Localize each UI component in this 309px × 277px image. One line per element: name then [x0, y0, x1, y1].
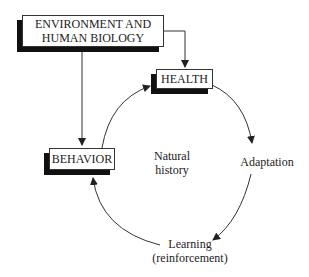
label-adaptation-text: Adaptation — [240, 155, 293, 169]
label-learning-line1: Learning — [140, 237, 240, 251]
node-environment-line2: HUMAN BIOLOGY — [42, 31, 144, 45]
diagram-canvas: ENVIRONMENT AND HUMAN BIOLOGY HEALTH BEH… — [0, 0, 309, 277]
label-adaptation: Adaptation — [237, 155, 297, 169]
node-environment-line1: ENVIRONMENT AND — [35, 17, 151, 31]
label-learning: Learning (reinforcement) — [140, 237, 240, 265]
node-behavior-label: BEHAVIOR — [52, 152, 112, 166]
label-natural-history: Natural history — [142, 149, 202, 177]
arrow-environment-to-health — [163, 31, 185, 67]
label-natural-history-line2: history — [142, 163, 202, 177]
arrow-adaptation-to-learning — [213, 174, 251, 240]
arrow-behavior-to-health — [102, 86, 150, 148]
arrow-health-to-adaptation — [212, 85, 252, 143]
node-health: HEALTH — [156, 69, 213, 89]
label-learning-line2: (reinforcement) — [140, 251, 240, 265]
label-natural-history-line1: Natural — [142, 149, 202, 163]
node-health-label: HEALTH — [161, 72, 208, 86]
node-behavior: BEHAVIOR — [49, 148, 115, 170]
node-environment-human-biology: ENVIRONMENT AND HUMAN BIOLOGY — [22, 15, 164, 47]
arrow-learning-to-behavior — [93, 178, 160, 245]
